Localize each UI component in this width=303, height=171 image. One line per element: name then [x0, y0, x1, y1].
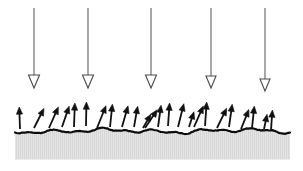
emitted-arrow-shaft — [168, 109, 169, 126]
emitted-arrow-shaft — [74, 109, 75, 127]
figure-root — [0, 0, 303, 171]
emitted-arrow-shaft — [19, 113, 20, 129]
emitted-arrow-shaft — [271, 116, 272, 130]
substrate-block — [15, 128, 290, 159]
emitted-arrow-shaft — [205, 108, 206, 126]
figure-canvas — [0, 0, 303, 171]
substrate-fill — [15, 128, 290, 159]
